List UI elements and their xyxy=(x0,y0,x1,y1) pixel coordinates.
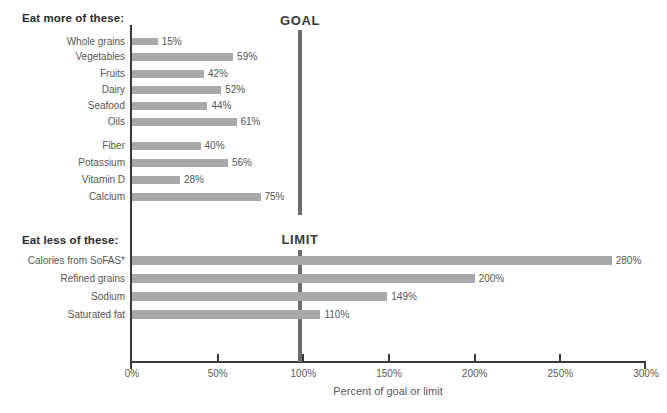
bar-value-label: 200% xyxy=(479,273,505,285)
bar-value-label: 15% xyxy=(162,36,182,48)
category-label: Whole grains xyxy=(67,36,125,48)
bar xyxy=(132,193,261,201)
bar-value-label: 61% xyxy=(241,116,261,128)
category-label: Dairy xyxy=(102,84,125,96)
bar xyxy=(132,53,233,61)
section-title-eat-more: Eat more of these: xyxy=(22,12,124,24)
bar xyxy=(132,142,201,150)
bar xyxy=(132,38,158,45)
x-axis-tick-label: 300% xyxy=(633,368,659,379)
bar-value-label: 59% xyxy=(237,51,257,63)
x-axis-tick xyxy=(388,354,390,361)
bar xyxy=(132,310,320,319)
category-label: Saturated fat xyxy=(68,309,125,321)
category-label: Potassium xyxy=(78,157,125,169)
x-axis-tick-label: 250% xyxy=(548,368,574,379)
bar-value-label: 40% xyxy=(205,140,225,152)
bar xyxy=(132,118,237,126)
bar-value-label: 44% xyxy=(211,100,231,112)
bar-value-label: 75% xyxy=(265,191,285,203)
bar-value-label: 110% xyxy=(324,309,349,321)
x-axis-tick xyxy=(302,354,304,361)
bar xyxy=(132,176,180,184)
x-axis-tick-label: 0% xyxy=(125,368,139,379)
bar-value-label: 42% xyxy=(208,68,228,80)
category-label: Refined grains xyxy=(61,273,125,285)
bar xyxy=(132,274,475,283)
bar-value-label: 149% xyxy=(391,291,417,303)
category-label: Calories from SoFAS* xyxy=(28,255,125,267)
x-axis-tick-label: 200% xyxy=(462,368,488,379)
x-axis-tick xyxy=(217,354,219,361)
bar xyxy=(132,86,221,94)
bar-value-label: 28% xyxy=(184,174,204,186)
bar xyxy=(132,70,204,78)
bar-value-label: 280% xyxy=(616,255,642,267)
bar xyxy=(132,256,612,265)
category-label: Fruits xyxy=(100,68,125,80)
bar-value-label: 52% xyxy=(225,84,245,96)
x-axis-tick xyxy=(474,354,476,361)
category-label: Vegetables xyxy=(76,51,126,63)
x-axis-tick xyxy=(559,354,561,361)
category-label: Oils xyxy=(108,116,125,128)
category-label: Fiber xyxy=(102,140,125,152)
category-label: Vitamin D xyxy=(82,174,125,186)
section-title-eat-less: Eat less of these: xyxy=(22,234,118,246)
category-label: Sodium xyxy=(91,291,125,303)
x-axis-tick-label: 100% xyxy=(291,368,317,379)
limit-reference-line xyxy=(298,250,302,362)
nutrition-bar-chart: Eat more of these: Eat less of these: GO… xyxy=(0,0,667,413)
x-axis-line xyxy=(130,361,646,363)
bar xyxy=(132,102,207,110)
goal-reference-line xyxy=(298,30,302,215)
bar xyxy=(132,159,228,167)
limit-label: LIMIT xyxy=(282,232,319,247)
x-axis-tick-label: 50% xyxy=(208,368,228,379)
bar xyxy=(132,292,387,301)
bar-value-label: 56% xyxy=(232,157,252,169)
x-axis-tick-label: 150% xyxy=(376,368,402,379)
category-label: Calcium xyxy=(89,191,125,203)
category-label: Seafood xyxy=(88,100,125,112)
x-axis-title: Percent of goal or limit xyxy=(333,385,442,397)
goal-label: GOAL xyxy=(280,13,320,28)
